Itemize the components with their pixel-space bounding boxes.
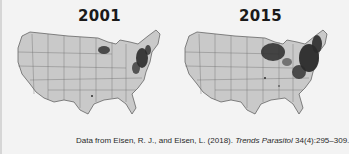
- caption-volume-pages: 34(4):295–309.: [293, 136, 349, 145]
- us-map-2015: [179, 22, 339, 122]
- figure-caption: Data from Eisen, R. J., and Eisen, L. (2…: [76, 136, 338, 145]
- us-map-2001: [8, 22, 168, 122]
- map-panel-2015: 2015: [171, 0, 342, 130]
- map-panel-2001: 2001: [0, 0, 171, 130]
- caption-citation: Data from Eisen, R. J., and Eisen, L. (2…: [76, 136, 235, 145]
- caption-journal: Trends Parasitol: [235, 136, 293, 145]
